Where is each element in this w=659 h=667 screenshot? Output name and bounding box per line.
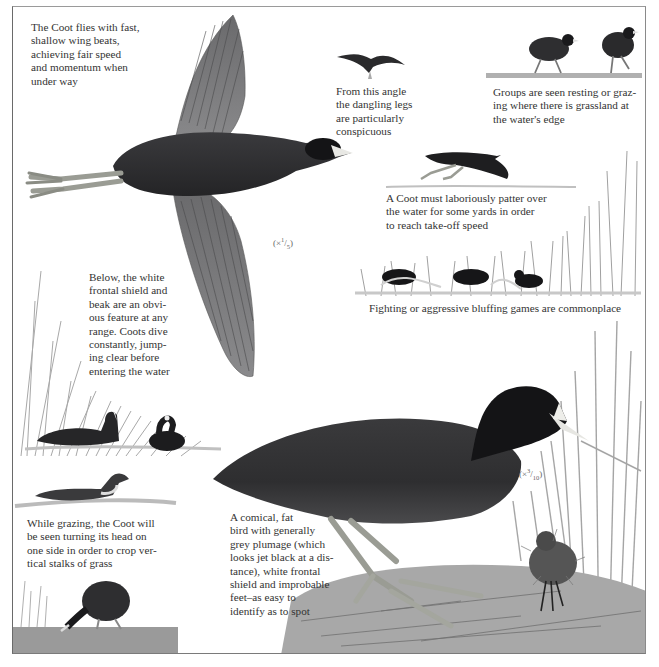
scale-prefix: (× [519,469,527,479]
front-view-coot-illustration [337,54,405,79]
caption-description: A comical, fat bird with generally grey … [230,511,333,618]
illustration-plate: The Coot flies with fast, shallow wing b… [12,6,646,654]
caption-fighting: Fighting or aggressive bluffing games ar… [369,302,621,315]
scale-suffix: ) [539,469,542,479]
takeoff-coot-illustration [386,152,576,187]
caption-groups: Groups are seen resting or graz- ing whe… [493,86,636,126]
grazing-coot-illustration [13,581,178,654]
fighting-coots-illustration [355,269,641,293]
caption-flight: The Coot flies with fast, shallow wing b… [31,21,139,88]
scale-prefix: (× [273,238,281,248]
scale-num: 3 [527,467,530,474]
scale-suffix: ) [290,238,293,248]
nest-illustration [281,565,646,654]
scale-num: 1 [281,236,284,243]
caption-takeoff: A Coot must laboriously patter over the … [386,192,547,232]
scale-standing: (×3/10) [519,467,542,481]
caption-dangling-legs: From this angle the dangling legs are pa… [336,85,412,139]
resting-group-illustration [486,27,642,78]
scale-flight: (×1/5) [273,236,293,250]
side-head-coot-illustration [15,473,176,506]
caption-below: Below, the white frontal shield and beak… [89,271,170,378]
caption-grazing: While grazing, the Coot will be seen tur… [27,517,157,571]
